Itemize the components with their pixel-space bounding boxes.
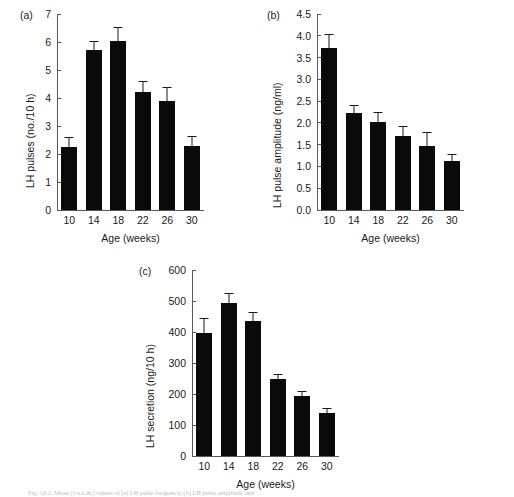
error-bar-cap <box>249 312 258 313</box>
panel-b: (b) LH pulse amplitude (ng/ml) 0.00.51.0… <box>257 0 514 250</box>
error-bar-stem <box>167 87 168 101</box>
y-tick-label: 4.0 <box>296 31 311 42</box>
y-tick-label: 0 <box>45 205 51 216</box>
panel-a-x-axis-label: Age (weeks) <box>57 232 204 244</box>
y-tick-mark <box>57 42 61 43</box>
x-tick-label: 22 <box>272 461 284 472</box>
y-tick-label: 2.0 <box>296 118 311 129</box>
panel-c-tag: (c) <box>139 265 151 277</box>
x-tick-label: 14 <box>348 215 360 226</box>
x-tick-label: 30 <box>321 461 333 472</box>
bar <box>184 146 200 210</box>
y-tick-label: 200 <box>168 389 186 400</box>
error-bar <box>200 318 209 333</box>
y-tick-mark <box>192 301 196 302</box>
error-bar-stem <box>93 41 94 51</box>
panel-a-y-axis-label: LH pulses (no./10 h) <box>24 93 36 188</box>
bar <box>196 333 212 456</box>
error-bar-cap <box>114 27 123 28</box>
y-tick-mark <box>57 98 61 99</box>
error-bar-cap <box>163 87 172 88</box>
x-tick-label: 10 <box>323 215 335 226</box>
error-bar-stem <box>204 318 205 333</box>
error-bar <box>163 87 172 101</box>
error-bar-cap <box>138 81 147 82</box>
bar <box>221 303 237 456</box>
error-bar-stem <box>69 137 70 147</box>
bar <box>86 50 102 210</box>
y-tick-label: 1.5 <box>296 139 311 150</box>
y-tick-mark <box>317 14 321 15</box>
error-bar-cap <box>187 136 196 137</box>
figure-caption: Fig. 10.2. Mean (± s.e.m.) values of (a)… <box>28 489 488 497</box>
y-tick-label: 0 <box>180 451 186 462</box>
bar <box>319 413 335 456</box>
panel-a-plot-area: 01234567101418222630 <box>57 14 204 210</box>
bar <box>159 101 175 210</box>
panel-b-tag: (b) <box>267 9 280 21</box>
panel-b-y-axis-label: LH pulse amplitude (ng/ml) <box>271 83 283 208</box>
y-tick-label: 4 <box>45 93 51 104</box>
error-bar <box>114 27 123 41</box>
x-tick-label: 22 <box>397 215 409 226</box>
error-bar-cap <box>224 293 233 294</box>
y-tick-mark <box>317 35 321 36</box>
error-bar <box>325 34 334 47</box>
y-tick-label: 6 <box>45 37 51 48</box>
x-tick-label: 14 <box>88 215 100 226</box>
error-bar <box>89 41 98 51</box>
error-bar-stem <box>451 154 452 161</box>
y-tick-label: 5 <box>45 65 51 76</box>
x-tick-label: 26 <box>161 215 173 226</box>
bar <box>395 136 411 210</box>
x-tick-label: 14 <box>223 461 235 472</box>
y-tick-label: 3 <box>45 121 51 132</box>
error-bar <box>423 132 432 145</box>
error-bar-stem <box>118 27 119 41</box>
error-bar <box>224 293 233 303</box>
y-tick-label: 2 <box>45 149 51 160</box>
error-bar-stem <box>228 293 229 303</box>
error-bar-cap <box>322 408 331 409</box>
y-tick-label: 0.5 <box>296 183 311 194</box>
panel-c-plot-area: 0100200300400500600101418222630 <box>192 270 339 456</box>
x-tick-label: 18 <box>372 215 384 226</box>
panel-c: (c) LH secretion (ng/10 h) 0100200300400… <box>130 258 400 488</box>
bar <box>444 161 460 210</box>
panel-b-x-axis-label: Age (weeks) <box>317 232 464 244</box>
x-tick-label: 10 <box>63 215 75 226</box>
error-bar-cap <box>447 154 456 155</box>
x-tick-label: 10 <box>198 461 210 472</box>
panel-c-y-axis-label: LH secretion (ng/10 h) <box>144 344 156 448</box>
error-bar-cap <box>374 112 383 113</box>
y-tick-label: 3.5 <box>296 52 311 63</box>
bar <box>370 122 386 210</box>
error-bar <box>374 112 383 122</box>
panel-a: (a) LH pulses (no./10 h) 012345671014182… <box>0 0 257 250</box>
y-tick-mark <box>192 270 196 271</box>
panel-b-y-axis <box>317 14 318 210</box>
y-tick-label: 500 <box>168 296 186 307</box>
error-bar <box>322 408 331 413</box>
error-bar <box>65 137 74 147</box>
y-tick-label: 3.0 <box>296 74 311 85</box>
bar <box>346 113 362 210</box>
error-bar-cap <box>398 126 407 127</box>
error-bar-stem <box>329 34 330 47</box>
error-bar <box>349 105 358 113</box>
error-bar-cap <box>349 105 358 106</box>
error-bar-stem <box>142 81 143 92</box>
y-tick-label: 1.0 <box>296 161 311 172</box>
x-tick-label: 18 <box>112 215 124 226</box>
bar <box>270 379 286 456</box>
y-tick-label: 1 <box>45 177 51 188</box>
error-bar <box>273 374 282 379</box>
y-tick-label: 600 <box>168 265 186 276</box>
panel-b-x-axis <box>317 210 464 211</box>
x-tick-label: 26 <box>421 215 433 226</box>
y-tick-mark <box>57 14 61 15</box>
panel-b-plot-area: 0.00.51.01.52.02.53.03.54.04.51014182226… <box>317 14 464 210</box>
error-bar <box>187 136 196 146</box>
error-bar <box>398 126 407 136</box>
bar <box>321 48 337 210</box>
